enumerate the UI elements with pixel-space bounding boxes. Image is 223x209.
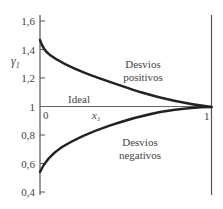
x-axis-label: x1 xyxy=(91,109,100,123)
positive-label-line1: Desvios xyxy=(125,58,160,70)
ytick-label: 1,4 xyxy=(21,44,35,56)
y-axis-label: γ1 xyxy=(11,54,20,70)
negative-label-line2: negativos xyxy=(119,149,161,161)
ytick-label: 0,8 xyxy=(21,129,35,141)
x-tick-zero: 0 xyxy=(43,109,49,121)
positive-label-line2: positivos xyxy=(123,71,163,83)
ytick-label: 1,6 xyxy=(21,15,35,27)
ytick-label: 1,2 xyxy=(21,72,35,84)
x-tick-one: 1 xyxy=(204,110,210,122)
ytick-label: 1 xyxy=(30,101,36,113)
negative-label-line1: Desvios xyxy=(122,136,157,148)
y-tick-labels: 1,6 1,4 1,2 1 0,8 0,6 0,4 xyxy=(21,15,35,198)
ytick-label: 0,6 xyxy=(21,158,35,170)
ideal-label: Ideal xyxy=(68,93,90,105)
ytick-label: 0,4 xyxy=(21,186,35,198)
activity-coefficient-chart: 1,6 1,4 1,2 1 0,8 0,6 0,4 γ1 0 1 x1 Idea… xyxy=(0,0,223,209)
